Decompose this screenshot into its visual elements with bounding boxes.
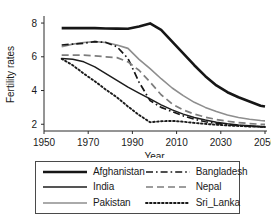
- legend-item-bangladesh: Bangladesh: [145, 164, 248, 180]
- x-tick-label: 1950: [33, 137, 56, 148]
- chart-legend: AfghanistanBangladeshIndiaNepalPakistanS…: [35, 161, 240, 214]
- legend-swatch-nepal: [145, 182, 191, 192]
- series-line-bangladesh: [62, 42, 265, 127]
- y-tick-label: 6: [31, 51, 37, 62]
- legend-label: Afghanistan: [93, 167, 145, 177]
- legend-swatch-sri-lanka: [145, 198, 191, 208]
- legend-label: Pakistan: [93, 198, 131, 208]
- x-tick-label: 2050: [254, 137, 271, 148]
- legend-label: Sri_Lanka: [196, 198, 240, 208]
- legend-item-afghanistan: Afghanistan: [42, 164, 145, 180]
- legend-swatch-pakistan: [42, 198, 88, 208]
- legend-item-nepal: Nepal: [145, 180, 248, 196]
- y-tick-label: 8: [31, 18, 37, 29]
- legend-swatch-india: [42, 182, 88, 192]
- x-tick-label: 2010: [165, 137, 188, 148]
- chart-plot-area: 2468195019701990201020302050YearFertilit…: [0, 0, 271, 158]
- legend-swatch-afghanistan: [42, 167, 88, 177]
- y-axis-title: Fertility rates: [5, 46, 16, 103]
- legend-item-sri-lanka: Sri_Lanka: [145, 195, 248, 211]
- y-tick-label: 4: [31, 85, 37, 96]
- x-tick-label: 1970: [77, 137, 100, 148]
- legend-swatch-bangladesh: [145, 167, 191, 177]
- line-chart-svg: 2468195019701990201020302050YearFertilit…: [0, 0, 271, 158]
- legend-label: India: [93, 182, 114, 192]
- x-tick-label: 2030: [210, 137, 233, 148]
- legend-label: Bangladesh: [196, 167, 248, 177]
- legend-item-india: India: [42, 180, 145, 196]
- legend-label: Nepal: [196, 182, 222, 192]
- y-tick-label: 2: [31, 119, 37, 130]
- legend-item-pakistan: Pakistan: [42, 195, 145, 211]
- x-tick-label: 1990: [121, 137, 144, 148]
- fertility-rates-chart-figure: 2468195019701990201020302050YearFertilit…: [0, 0, 271, 218]
- x-axis-title: Year: [144, 151, 165, 158]
